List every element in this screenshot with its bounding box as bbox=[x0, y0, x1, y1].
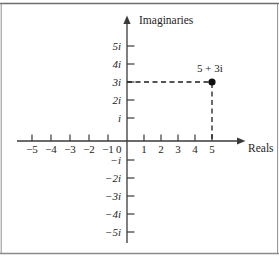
x-tick-label--5: −5 bbox=[24, 144, 40, 155]
y-tick-label--i: −i bbox=[96, 155, 121, 166]
real-axis-title: Reals bbox=[248, 143, 274, 154]
x-tick-label-3: 3 bbox=[173, 144, 183, 155]
y-tick-label-4i: 4i bbox=[100, 59, 121, 70]
x-tick-label--2: −2 bbox=[81, 144, 97, 155]
imaginary-axis-title: Imaginaries bbox=[139, 15, 193, 26]
y-tick-label--4i: −4i bbox=[96, 209, 121, 220]
x-tick-label-5: 5 bbox=[207, 144, 217, 155]
y-tick-label-5i: 5i bbox=[100, 41, 121, 52]
x-tick-label-2: 2 bbox=[156, 144, 166, 155]
x-tick-label-1: 1 bbox=[139, 144, 149, 155]
y-tick-label-3i: 3i bbox=[100, 77, 121, 88]
y-tick-label-2i: 2i bbox=[100, 95, 121, 106]
point-annotation-label: 5 + 3i bbox=[197, 63, 223, 74]
x-tick-label--4: −4 bbox=[43, 144, 59, 155]
complex-plane-plot bbox=[0, 0, 279, 260]
imaginary-axis-arrow bbox=[123, 16, 130, 25]
real-axis-arrow bbox=[237, 137, 246, 144]
argand-diagram-figure: Imaginaries Reals 0 −5 −4 −3 −2 −1 1 2 3… bbox=[0, 0, 279, 260]
y-tick-label--3i: −3i bbox=[96, 191, 121, 202]
y-tick-label--2i: −2i bbox=[96, 173, 121, 184]
y-tick-label-i: i bbox=[100, 113, 121, 124]
plotted-point-5-plus-3i bbox=[208, 78, 215, 85]
x-tick-label-4: 4 bbox=[190, 144, 200, 155]
y-tick-label--5i: −5i bbox=[96, 227, 121, 238]
x-tick-label--3: −3 bbox=[62, 144, 78, 155]
